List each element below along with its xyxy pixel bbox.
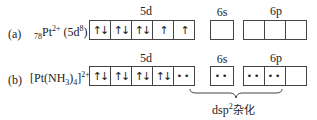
orbital-box bbox=[210, 20, 233, 40]
orbital-box: ↑↓ bbox=[110, 20, 131, 40]
element-symbol: Pt bbox=[42, 25, 52, 39]
orbital-box: ↑↓ bbox=[131, 20, 152, 40]
orbital-box bbox=[243, 20, 264, 40]
config-close: ) bbox=[84, 25, 88, 39]
orbital-box: ↑↓ bbox=[152, 66, 173, 86]
orbital-box: ↑↓ bbox=[89, 66, 110, 86]
row-a-6s-orbitals bbox=[210, 20, 234, 40]
row-b-6p-label: 6p bbox=[266, 51, 286, 66]
orbital-box: •• bbox=[264, 66, 285, 86]
config-open: (5d bbox=[64, 25, 80, 39]
row-b-5d-orbitals: ↑↓ ↑↓ ↑↓ ↑↓ •• bbox=[89, 66, 195, 86]
orbital-box: •• bbox=[210, 66, 233, 86]
atomic-number: 78 bbox=[34, 32, 42, 41]
orbital-box bbox=[264, 20, 285, 40]
row-a-5d-label: 5d bbox=[136, 4, 156, 19]
row-b-species: [Pt(NH3)4]2+ bbox=[30, 71, 90, 86]
hybrid-suffix: 杂化 bbox=[233, 104, 255, 117]
orbital-box: ↑ bbox=[152, 20, 173, 40]
orbital-box bbox=[285, 20, 306, 40]
orbital-box: ↑↓ bbox=[89, 20, 110, 40]
formula-part: [Pt(NH bbox=[30, 71, 65, 85]
ion-charge: 2+ bbox=[52, 24, 61, 33]
hybridization-brace-icon bbox=[188, 88, 284, 100]
row-a-5d-orbitals: ↑↓ ↑↓ ↑↓ ↑ ↑ bbox=[89, 20, 195, 40]
row-a-6p-orbitals bbox=[243, 20, 307, 40]
orbital-box: ↑ bbox=[173, 20, 194, 40]
row-b-6s-label: 6s bbox=[212, 52, 232, 67]
hybridization-label: dsp2杂化 bbox=[212, 101, 255, 118]
hybrid-text: dsp bbox=[212, 103, 229, 117]
orbital-box: ↑↓ bbox=[131, 66, 152, 86]
row-b-label: (b) bbox=[8, 73, 22, 88]
row-a-6p-label: 6p bbox=[266, 4, 286, 19]
row-b-6p-orbitals: •• •• bbox=[243, 66, 307, 86]
row-b-6s-orbitals: •• bbox=[210, 66, 234, 86]
orbital-box: •• bbox=[243, 66, 264, 86]
row-b-5d-label: 5d bbox=[136, 51, 156, 66]
orbital-box bbox=[285, 66, 306, 86]
orbital-box: •• bbox=[173, 66, 194, 86]
row-a-6s-label: 6s bbox=[212, 5, 232, 20]
row-a-species: 78Pt2+ (5d8) bbox=[34, 25, 88, 40]
row-a-label: (a) bbox=[8, 27, 21, 42]
orbital-box: ↑↓ bbox=[110, 66, 131, 86]
